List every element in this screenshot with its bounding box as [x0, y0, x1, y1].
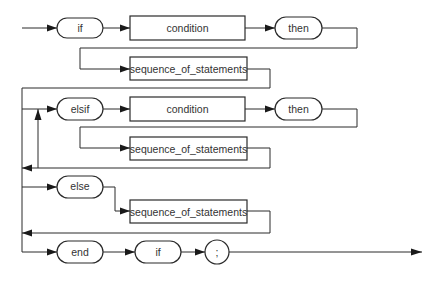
label-sequence: sequence_of_statements [130, 63, 247, 75]
if-statement-syntax-diagram: if condition then sequence_of_statements… [0, 0, 439, 283]
label-semicolon: ; [216, 246, 219, 258]
arrow-left-icon [22, 230, 32, 237]
label-if: if [77, 22, 82, 34]
arrow-right-icon [265, 106, 275, 113]
arrow-right-icon [125, 249, 135, 256]
row-if-clause: if condition then sequence_of_statements [22, 16, 357, 88]
arrow-right-icon [47, 25, 57, 32]
label-sequence: sequence_of_statements [130, 206, 247, 218]
arrow-right-icon [47, 106, 57, 113]
row-end-clause: end if ; [22, 240, 422, 264]
label-end: end [71, 246, 89, 258]
row-elsif-clause: elsif condition then sequence_of_stateme… [22, 97, 357, 172]
label-sequence: sequence_of_statements [130, 143, 247, 155]
label-else: else [70, 180, 89, 192]
label-condition: condition [166, 103, 208, 115]
label-elsif: elsif [71, 103, 90, 115]
arrow-right-icon [120, 106, 130, 113]
label-then: then [288, 103, 309, 115]
arrow-right-icon [120, 208, 130, 215]
row-else-clause: else sequence_of_statements [22, 176, 270, 237]
arrow-right-icon [47, 249, 57, 256]
arrow-right-icon [47, 184, 57, 191]
arrow-right-icon [265, 25, 275, 32]
arrow-right-icon [120, 66, 130, 73]
label-if: if [155, 246, 160, 258]
arrow-up-icon [35, 109, 42, 120]
arrow-right-icon [120, 145, 130, 152]
arrow-right-icon [120, 25, 130, 32]
label-condition: condition [166, 22, 208, 34]
label-then: then [288, 22, 309, 34]
arrow-right-icon [195, 249, 205, 256]
arrow-left-icon [22, 165, 32, 172]
exit-arrow-icon [411, 249, 422, 256]
